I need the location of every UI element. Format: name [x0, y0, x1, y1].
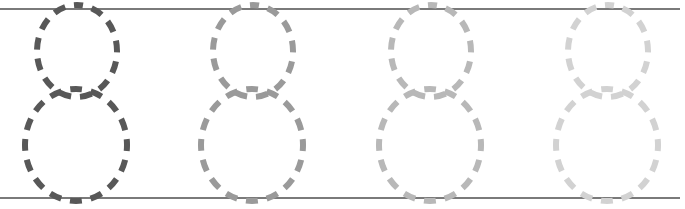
- upper-loop: [391, 5, 471, 97]
- lower-loop: [25, 89, 127, 201]
- dashed-digit-8: [556, 5, 658, 201]
- tracing-digits: [0, 0, 685, 209]
- dashed-digit-8: [379, 5, 481, 201]
- upper-loop: [37, 5, 117, 97]
- upper-loop: [568, 5, 648, 97]
- upper-loop: [213, 5, 293, 97]
- dashed-digit-8: [25, 5, 127, 201]
- lower-loop: [201, 89, 303, 201]
- lower-loop: [556, 89, 658, 201]
- dashed-digit-8: [201, 5, 303, 201]
- lower-loop: [379, 89, 481, 201]
